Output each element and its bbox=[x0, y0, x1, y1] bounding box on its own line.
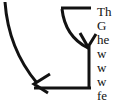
text-line: w bbox=[97, 75, 113, 88]
clipped-text-block: Th G he w w w fe bbox=[95, 0, 113, 107]
long-curved-arrow-head-left-icon bbox=[34, 74, 50, 93]
long-curved-arrow-shaft bbox=[5, 2, 37, 83]
screenshot-root: Th G he w w w fe bbox=[0, 0, 113, 107]
text-line: Th bbox=[97, 5, 113, 18]
text-line: w bbox=[97, 47, 113, 60]
text-line: he bbox=[97, 33, 113, 46]
text-line: G bbox=[97, 19, 113, 32]
text-line: w bbox=[97, 61, 113, 74]
text-line: fe bbox=[97, 89, 113, 102]
